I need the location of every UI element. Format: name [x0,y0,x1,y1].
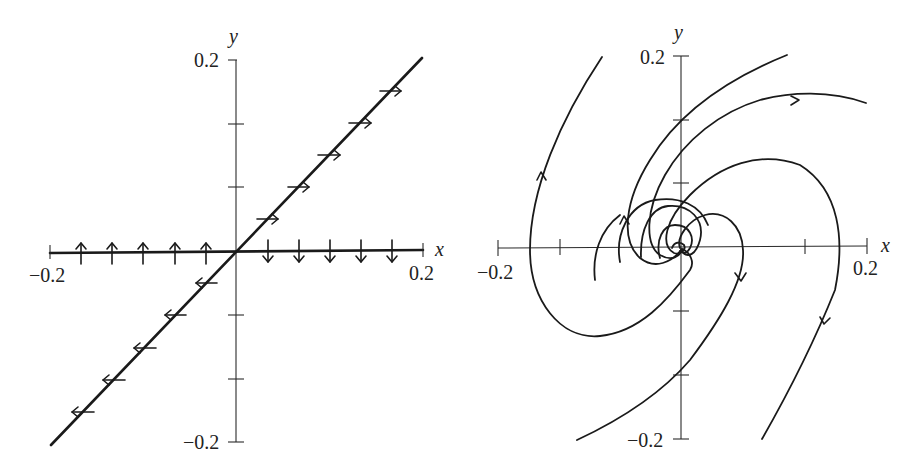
right-x-min-label: −0.2 [477,261,513,283]
left-y-min-label: −0.2 [183,431,219,453]
left-arrow-icon [103,375,125,385]
right-arrow-icons [257,86,401,224]
right-x-axis-label: x [880,234,890,256]
up-arrow-icon [201,243,211,264]
right-arrow-icon [318,150,340,160]
left-x-max-label: 0.2 [409,262,434,284]
left-arrow-icon [72,407,94,417]
trajectory [530,57,692,336]
left-arrow-icon [165,310,186,320]
left-arrow-icon [196,278,217,288]
left-y-max-label: 0.2 [194,49,219,71]
left-x-axis-label: x [434,238,444,260]
left-x-min-label: −0.2 [29,264,65,286]
trajectory [666,159,839,439]
right-y-axis-label: y [672,21,683,44]
right-arrow-icon [349,118,371,128]
left-y-axis-label: y [227,25,238,48]
left-arrow-icons [72,278,217,417]
right-phase-portrait: y 0.2 −0.2 x −0.2 0.2 [477,21,890,451]
trajectory-arrow-icons [537,96,830,324]
up-arrow-icon [170,243,180,264]
left-arrow-icon [134,343,156,353]
right-arrow-icon [257,214,278,224]
right-x-axis [498,246,867,248]
right-x-max-label: 0.2 [853,257,878,279]
right-arrow-icon [288,182,309,192]
figure-canvas: y 0.2 −0.2 x −0.2 0.2 [0,0,923,474]
left-phase-portrait: y 0.2 −0.2 x −0.2 0.2 [29,25,444,453]
right-y-min-label: −0.2 [627,429,663,451]
right-arrow-icon [380,86,401,96]
right-y-max-label: 0.2 [640,46,665,68]
arrow-right-icon [791,96,799,105]
